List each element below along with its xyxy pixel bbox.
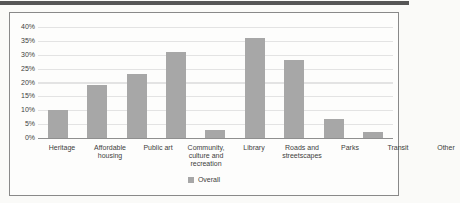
bar-column [156,27,195,138]
category-label: Roads and streetscapes [278,144,326,160]
bar-column [314,27,353,138]
y-tick-label: 25% [10,65,35,73]
bar-column [77,27,116,138]
plot-area [38,27,393,139]
category-label: Public art [134,144,182,152]
bar-community-culture-and-recreation [166,52,186,138]
category-column: Parks [326,144,374,152]
bar-column [275,27,314,138]
bar-heritage [48,110,68,138]
bar-column [38,27,77,138]
y-tick-label: 0% [10,134,35,142]
bar-affordable-housing [87,85,107,138]
category-label: Community, culture and recreation [182,144,230,168]
category-column: Library [230,144,278,152]
legend-marker-icon [188,177,194,183]
bar-column [354,27,393,138]
y-tick-label: 15% [10,92,35,100]
legend-label: Overall [198,176,220,184]
bar-column [235,27,274,138]
category-label: Other [422,144,460,152]
category-column: Community, culture and recreation [182,144,230,168]
x-axis-category-labels: HeritageAffordable housingPublic artComm… [38,144,393,168]
bar-column [196,27,235,138]
scan-top-border [0,1,409,5]
bar-other [363,132,383,138]
bar-roads-and-streetscapes [245,38,265,138]
bar-transit [324,119,344,138]
category-column: Other [422,144,460,152]
category-column: Transit [374,144,422,152]
category-label: Affordable housing [86,144,134,160]
category-column: Heritage [38,144,86,152]
y-tick-label: 20% [10,79,35,87]
bar-public-art [127,74,147,138]
y-tick-label: 5% [10,120,35,128]
category-column: Affordable housing [86,144,134,160]
category-label: Transit [374,144,422,152]
bar-chart: 40%35%30%25%20%15%10%5%0% HeritageAfford… [9,12,399,196]
y-tick-label: 35% [10,37,35,45]
y-axis-tick-labels: 40%35%30%25%20%15%10%5%0% [10,27,35,138]
category-column: Public art [134,144,182,152]
y-tick-label: 40% [10,23,35,31]
bar-parks [284,60,304,138]
category-column: Roads and streetscapes [278,144,326,160]
y-tick-label: 10% [10,106,35,114]
bar-library [205,130,225,138]
category-label: Library [230,144,278,152]
y-tick-label: 30% [10,51,35,59]
category-label: Parks [326,144,374,152]
legend: Overall [10,176,398,184]
bar-column [117,27,156,138]
category-label: Heritage [38,144,86,152]
